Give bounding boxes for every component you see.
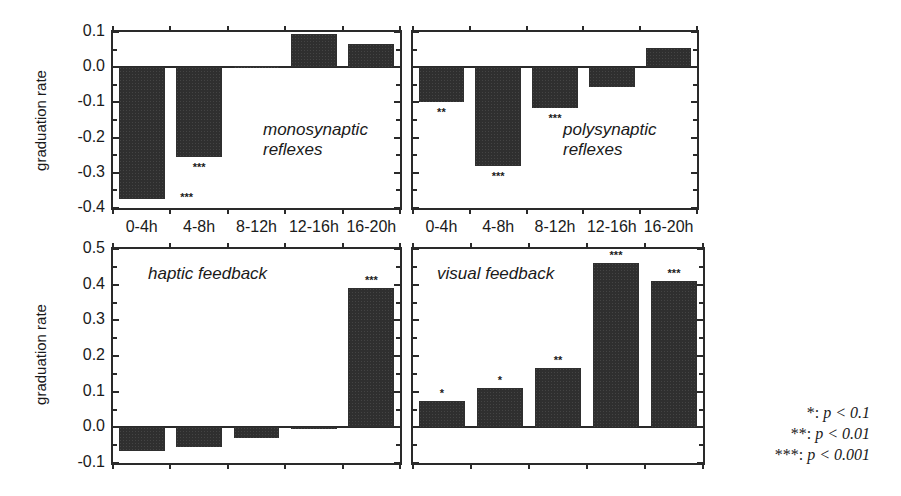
x-tick-mark — [412, 26, 414, 32]
x-tick-mark — [702, 463, 704, 469]
y-tick-mark — [691, 66, 697, 68]
legend-item: *: p < 0.1 — [720, 402, 870, 423]
significance-marker: *** — [596, 249, 636, 261]
x-tick-mark — [284, 243, 286, 249]
bar-4-8h — [176, 67, 222, 157]
y-tick-mark — [396, 337, 400, 339]
x-tick-mark — [412, 208, 414, 214]
y-tick-mark — [691, 101, 697, 103]
significance-marker: *** — [179, 161, 219, 173]
panel-title-line: reflexes — [263, 140, 368, 160]
y-tick-mark — [396, 302, 400, 304]
y-tick-mark — [396, 119, 400, 121]
y-tick-mark — [697, 426, 703, 428]
y-tick-mark — [113, 154, 117, 156]
x-tick-mark — [112, 243, 114, 249]
y-tick-mark — [693, 49, 697, 51]
y-tick-mark — [697, 284, 703, 286]
y-tick-mark — [394, 355, 400, 357]
legend-item: **: p < 0.01 — [720, 423, 870, 444]
x-tick-mark — [169, 463, 171, 469]
bar-0-4h — [419, 401, 465, 428]
y-tick-label: -0.1 — [61, 93, 105, 109]
x-tick-mark — [644, 463, 646, 469]
y-tick-mark — [693, 84, 697, 86]
y-tick-mark — [113, 373, 117, 375]
x-tick-mark — [528, 243, 530, 249]
y-tick-mark — [699, 373, 703, 375]
x-tick-mark — [399, 243, 401, 249]
y-tick-mark — [394, 66, 400, 68]
y-tick-mark — [413, 84, 417, 86]
significance-marker: * — [480, 374, 520, 386]
y-tick-label: -0.1 — [61, 454, 105, 470]
x-tick-label: 0-4h — [412, 218, 470, 236]
x-tick-mark — [412, 243, 414, 249]
y-tick-label: -0.2 — [61, 129, 105, 145]
x-tick-mark — [284, 463, 286, 469]
x-tick-mark — [112, 26, 114, 32]
x-tick-mark — [696, 208, 698, 214]
y-tick-label: -0.4 — [61, 199, 105, 215]
y-tick-mark — [413, 154, 417, 156]
x-tick-mark — [112, 208, 114, 214]
y-tick-mark — [113, 444, 117, 446]
y-tick-mark — [413, 373, 417, 375]
x-tick-mark — [169, 208, 171, 214]
y-tick-mark — [413, 444, 417, 446]
x-tick-mark — [227, 208, 229, 214]
y-tick-mark — [113, 84, 117, 86]
y-tick-mark — [394, 137, 400, 139]
x-tick-mark — [227, 243, 229, 249]
bar-0-4h — [119, 427, 165, 450]
x-tick-mark — [169, 26, 171, 32]
x-tick-mark — [284, 208, 286, 214]
y-tick-mark — [699, 409, 703, 411]
y-tick-mark — [413, 337, 417, 339]
y-axis-label-bottom: graduation rate — [32, 275, 49, 435]
x-tick-label: 4-8h — [469, 218, 527, 236]
y-tick-mark — [413, 101, 419, 103]
y-tick-label: 0.4 — [61, 276, 105, 292]
y-tick-mark — [113, 137, 119, 139]
y-tick-label: 0.1 — [61, 23, 105, 39]
y-tick-mark — [697, 391, 703, 393]
bar-16-20h — [646, 48, 691, 67]
bar-16-20h — [651, 281, 697, 427]
panel-title: visual feedback — [437, 264, 554, 284]
x-tick-mark — [639, 208, 641, 214]
y-tick-mark — [413, 409, 417, 411]
significance-marker: ** — [538, 354, 578, 366]
y-tick-mark — [113, 426, 119, 428]
y-tick-mark — [413, 119, 417, 121]
y-tick-mark — [699, 337, 703, 339]
x-tick-mark — [696, 26, 698, 32]
y-tick-mark — [691, 137, 697, 139]
y-tick-label: 0.5 — [61, 240, 105, 256]
x-tick-mark — [399, 26, 401, 32]
bar-8-12h — [532, 67, 577, 107]
bar-16-20h — [348, 288, 394, 427]
x-tick-mark — [470, 463, 472, 469]
x-tick-label: 16-20h — [640, 218, 698, 236]
chart-panel-top-right: ********polysynapticreflexes — [411, 30, 699, 210]
y-tick-mark — [394, 391, 400, 393]
x-tick-mark — [586, 243, 588, 249]
y-tick-mark — [394, 101, 400, 103]
y-tick-mark — [413, 391, 419, 393]
y-tick-mark — [396, 444, 400, 446]
y-tick-mark — [413, 302, 417, 304]
bar-8-12h — [535, 368, 581, 427]
bar-12-16h — [291, 427, 337, 429]
y-tick-label: 0.1 — [61, 383, 105, 399]
panel-title-line: reflexes — [563, 140, 657, 160]
y-tick-mark — [413, 266, 417, 268]
y-tick-mark — [113, 189, 117, 191]
x-tick-label: 8-12h — [228, 218, 286, 236]
y-tick-mark — [113, 284, 119, 286]
x-tick-mark — [342, 243, 344, 249]
y-tick-mark — [413, 137, 419, 139]
y-tick-mark — [396, 49, 400, 51]
y-tick-mark — [394, 172, 400, 174]
y-tick-label: 0.3 — [61, 311, 105, 327]
